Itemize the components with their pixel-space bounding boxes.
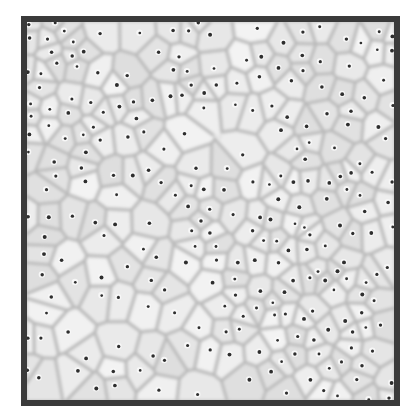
nucleus [186, 205, 190, 209]
nucleus [348, 64, 351, 67]
nucleus [37, 376, 41, 380]
nucleus [171, 29, 175, 33]
nucleus [112, 174, 115, 177]
nucleus [82, 133, 85, 136]
nucleus [209, 348, 212, 351]
nucleus [371, 171, 374, 174]
nucleus [376, 48, 379, 51]
nucleus [345, 277, 348, 280]
nucleus [151, 98, 155, 102]
nucleus [92, 126, 95, 129]
nucleus [126, 265, 129, 268]
nucleus [208, 208, 211, 211]
nucleus [346, 188, 349, 191]
nucleus [390, 49, 394, 53]
nucleus [115, 83, 119, 87]
nucleus [291, 180, 295, 184]
nucleus [285, 115, 289, 119]
nucleus [30, 115, 33, 118]
nucleus [190, 184, 193, 187]
cell [203, 254, 227, 271]
nucleus [277, 261, 280, 264]
nucleus [291, 279, 295, 283]
nucleus [63, 30, 66, 33]
nucleus [187, 29, 190, 32]
nucleus [360, 311, 363, 314]
nucleus [215, 258, 218, 261]
nucleus [138, 32, 141, 35]
nucleus [284, 312, 287, 315]
nucleus [235, 82, 238, 85]
nucleus [379, 323, 382, 326]
nucleus [259, 289, 263, 293]
nucleus [312, 338, 316, 342]
nucleus [325, 197, 329, 201]
cell-pattern [27, 22, 394, 400]
nucleus [98, 32, 101, 35]
nucleus [208, 231, 212, 235]
nucleus [54, 175, 57, 178]
nucleus [184, 260, 188, 264]
nucleus [115, 193, 118, 196]
nucleus [100, 294, 103, 297]
nucleus [76, 65, 79, 68]
nucleus [213, 67, 216, 70]
nucleus [183, 132, 187, 136]
nucleus [55, 62, 58, 65]
nucleus [135, 117, 139, 121]
nucleus [369, 231, 373, 235]
nucleus [279, 175, 282, 178]
nucleus [142, 248, 145, 251]
nucleus [241, 153, 244, 156]
nucleus [150, 279, 153, 282]
nucleus [285, 392, 288, 395]
nucleus [180, 93, 184, 97]
nucleus [232, 213, 235, 216]
nucleus [186, 70, 189, 73]
nucleus [157, 50, 160, 53]
nucleus [269, 218, 273, 222]
nucleus [159, 181, 162, 184]
nucleus [163, 359, 166, 362]
nucleus [155, 255, 159, 259]
nucleus [43, 235, 47, 239]
nucleus [390, 180, 393, 183]
nucleus [84, 357, 88, 361]
nucleus [328, 367, 331, 370]
nucleus [94, 387, 98, 391]
nucleus [41, 273, 44, 276]
nucleus [301, 30, 304, 33]
nucleus [233, 278, 236, 281]
nucleus [323, 279, 327, 283]
nucleus [287, 249, 291, 253]
nucleus [342, 260, 346, 264]
nucleus [27, 23, 30, 26]
image-frame [21, 16, 400, 406]
nucleus [297, 205, 301, 209]
nucleus [382, 79, 385, 82]
nucleus [46, 38, 49, 41]
nucleus [82, 50, 86, 54]
nucleus [259, 55, 263, 59]
nucleus [276, 197, 280, 201]
nucleus [198, 326, 201, 329]
nucleus [303, 226, 306, 229]
nucleus [222, 188, 226, 192]
nucleus [359, 194, 362, 197]
nucleus [251, 229, 254, 232]
nucleus [47, 124, 50, 127]
nucleus [390, 381, 394, 385]
nucleus [66, 111, 70, 115]
nucleus [48, 108, 51, 111]
nucleus [211, 281, 215, 285]
nucleus [360, 293, 364, 297]
nucleus [202, 187, 206, 191]
nucleus [27, 132, 31, 136]
nucleus [336, 269, 340, 273]
nucleus [103, 234, 106, 237]
nucleus [84, 150, 88, 154]
nucleus [276, 339, 279, 342]
nucleus [66, 330, 70, 334]
nucleus [363, 96, 367, 100]
nucleus [279, 128, 283, 132]
